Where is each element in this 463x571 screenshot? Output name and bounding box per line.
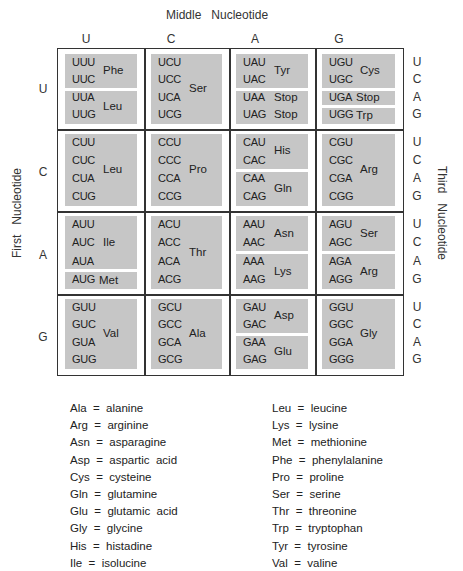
codon-gua: GUA — [72, 336, 95, 348]
codon-gag: GAG — [243, 353, 267, 365]
codon-uag: UAG — [243, 108, 266, 120]
codon-uac: UAC — [243, 73, 265, 85]
legend-item: Gln = glutamine — [70, 486, 178, 503]
legend-item: Asn = asparagine — [70, 434, 178, 451]
codon-agc: AGC — [329, 236, 352, 248]
codon-cuu: CUU — [72, 136, 95, 148]
amino-acid-label: Stop — [274, 108, 298, 120]
middle-base-a: A — [245, 32, 265, 46]
amino-acid-label: Gly — [360, 327, 377, 339]
third-base-a: A — [407, 254, 427, 268]
codon-gcc: GCC — [158, 318, 182, 330]
amino-acid-label: Cys — [360, 64, 380, 76]
middle-base-c: C — [161, 32, 181, 46]
codon-caa: CAA — [243, 172, 265, 184]
third-nucleotide-title: Third Nucleotide — [435, 158, 449, 268]
third-base-g: G — [407, 107, 427, 121]
amino-acid-label: Tyr — [274, 64, 290, 76]
legend-right: Leu = leucine Lys = lysine Met = methion… — [272, 400, 383, 571]
legend-item: Ala = alanine — [70, 400, 178, 417]
legend-item: Val = valine — [272, 555, 383, 571]
legend-item: Leu = leucine — [272, 400, 383, 417]
legend-item: Asp = aspartic acid — [70, 452, 178, 469]
codon-uug: UUG — [72, 108, 96, 120]
third-base-g: G — [407, 352, 427, 366]
first-base-u: U — [33, 82, 53, 96]
codon-gcg: GCG — [158, 353, 182, 365]
third-base-u: U — [407, 55, 427, 69]
codon-aaa: AAA — [243, 255, 264, 267]
amino-acid-label: Glu — [274, 345, 292, 357]
codon-gca: GCA — [158, 336, 181, 348]
codon-agu: AGU — [329, 218, 352, 230]
amino-acid-label: Phe — [103, 64, 123, 76]
third-base-a: A — [407, 90, 427, 104]
codon-uua: UUA — [72, 91, 94, 103]
codon-ugu: UGU — [329, 56, 353, 68]
amino-acid-label: Lys — [274, 265, 291, 277]
legend-item: Lys = lysine — [272, 417, 383, 434]
codon-cag: CAG — [243, 190, 266, 202]
codon-aac: AAC — [243, 236, 265, 248]
codon-ccc: CCC — [158, 154, 181, 166]
codon-acc: ACC — [158, 236, 180, 248]
amino-acid-label: Gln — [274, 182, 292, 194]
third-base-c: C — [407, 235, 427, 249]
first-base-a: A — [33, 248, 53, 262]
codon-uuc: UUC — [72, 73, 95, 85]
amino-acid-label: Stop — [356, 91, 380, 103]
amino-acid-label: Leu — [103, 163, 122, 175]
legend-item: Arg = arginine — [70, 417, 178, 434]
codon-aau: AAU — [243, 218, 265, 230]
codon-ucu: UCU — [158, 56, 181, 68]
codon-aua: AUA — [72, 255, 94, 267]
codon-ggc: GGC — [329, 318, 353, 330]
codon-guc: GUC — [72, 318, 96, 330]
codon-cua: CUA — [72, 172, 94, 184]
third-base-a: A — [407, 335, 427, 349]
codon-cga: CGA — [329, 172, 352, 184]
codon-ccu: CCU — [158, 136, 181, 148]
amino-acid-label: Leu — [103, 100, 122, 112]
codon-uga: UGA — [329, 91, 352, 103]
legend-item: Pro = proline — [272, 469, 383, 486]
amino-acid-label: Ile — [103, 236, 115, 248]
codon-ugg: UGG — [329, 108, 353, 120]
third-base-u: U — [407, 217, 427, 231]
middle-nucleotide-title: Middle Nucleotide — [166, 8, 268, 22]
codon-agg: AGG — [329, 273, 353, 285]
legend-item: Trp = tryptophan — [272, 520, 383, 537]
third-base-u: U — [407, 300, 427, 314]
codon-ggg: GGG — [329, 353, 354, 365]
codon-acg: ACG — [158, 273, 181, 285]
amino-acid-label: Val — [103, 327, 119, 339]
third-base-u: U — [407, 135, 427, 149]
codon-aag: AAG — [243, 273, 265, 285]
codon-cug: CUG — [72, 190, 96, 202]
codon-uuu: UUU — [72, 56, 95, 68]
codon-cgu: CGU — [329, 136, 353, 148]
first-base-g: G — [33, 330, 53, 344]
third-base-c: C — [407, 72, 427, 86]
first-nucleotide-title: First Nucleotide — [10, 158, 24, 268]
amino-acid-label: Asn — [274, 227, 294, 239]
codon-aga: AGA — [329, 255, 351, 267]
codon-auu: AUU — [72, 218, 94, 230]
codon-aca: ACA — [158, 255, 180, 267]
codon-acu: ACU — [158, 218, 180, 230]
codon-gac: GAC — [243, 318, 266, 330]
legend-item: Met = methionine — [272, 434, 383, 451]
amino-acid-label: Arg — [360, 163, 378, 175]
first-base-c: C — [33, 165, 53, 179]
codon-gau: GAU — [243, 301, 266, 313]
codon-guu: GUU — [72, 301, 96, 313]
codon-uca: UCA — [158, 91, 180, 103]
codon-cca: CCA — [158, 172, 180, 184]
codon-cac: CAC — [243, 154, 265, 166]
amino-acid-label: Arg — [360, 265, 378, 277]
legend-item: Thr = threonine — [272, 503, 383, 520]
legend-item: Glu = glutamic acid — [70, 503, 178, 520]
codon-aug: AUG — [72, 273, 95, 285]
amino-acid-label: His — [274, 144, 291, 156]
amino-acid-label: Stop — [274, 91, 298, 103]
